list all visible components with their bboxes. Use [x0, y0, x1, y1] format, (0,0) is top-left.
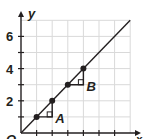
origin-label: O — [6, 132, 16, 139]
x-axis-label: x — [135, 133, 143, 139]
data-point — [49, 98, 55, 104]
y-tick-label: 6 — [6, 29, 13, 44]
y-axis-label: y — [27, 6, 36, 21]
y-tick-label: 4 — [6, 62, 14, 77]
data-point — [65, 82, 71, 88]
y-axis-arrow-icon — [18, 11, 24, 17]
right-angle-icon — [47, 112, 52, 117]
triangle-label-b: B — [86, 79, 95, 94]
x-axis — [21, 130, 141, 136]
y-axis — [18, 11, 24, 133]
y-tick-label: 2 — [6, 94, 13, 109]
right-angle-icon — [78, 80, 83, 85]
data-point — [34, 114, 40, 120]
data-point — [80, 66, 86, 72]
triangle-label-a: A — [54, 111, 64, 126]
slope-chart: 246 y x O AB — [0, 0, 143, 139]
